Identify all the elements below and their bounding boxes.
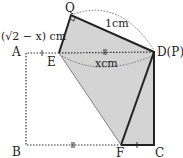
label-A: A xyxy=(11,45,21,59)
folded-region xyxy=(59,15,154,145)
geometry-figure: Q A E D(P) B F C (√2 − x) cm 1cm xcm xyxy=(0,0,183,158)
label-Q: Q xyxy=(65,1,75,15)
label-ED-length: xcm xyxy=(95,57,118,70)
label-D: D(P) xyxy=(157,45,183,59)
label-EQ-length: (√2 − x) cm xyxy=(1,30,67,43)
label-QD-length: 1cm xyxy=(105,17,129,30)
label-E: E xyxy=(47,55,56,69)
label-B: B xyxy=(12,145,21,158)
label-C: C xyxy=(155,146,164,158)
label-F: F xyxy=(116,146,124,158)
